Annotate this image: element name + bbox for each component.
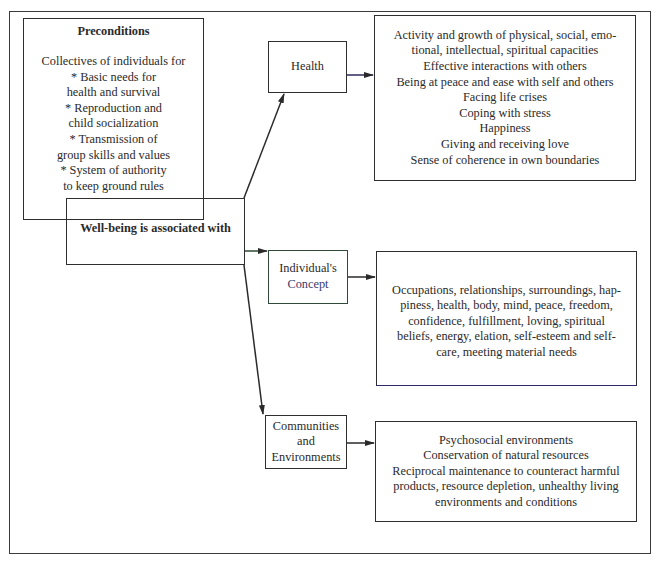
concept-detail-line: piness, health, body, mind, peace, freed… — [400, 298, 613, 314]
health-detail-box: Activity and growth of physical, social,… — [374, 15, 636, 181]
environments-detail-line: Psychosocial environments — [439, 433, 573, 449]
environments-detail-line: environments and conditions — [435, 495, 577, 511]
environments-detail-line: Conservation of natural resources — [423, 448, 589, 464]
health-node: Health — [268, 41, 347, 93]
concept-detail-line: confidence, fulfillment, loving, spiritu… — [408, 314, 605, 330]
individual-concept-label: Concept — [288, 277, 329, 293]
preconditions-line: health and survival — [67, 85, 161, 101]
health-detail-line: Being at peace and ease with self and ot… — [396, 75, 613, 91]
preconditions-line: to keep ground rules — [63, 179, 164, 195]
concept-detail-line: Occupations, relationships, surroundings… — [392, 283, 621, 299]
concept-detail-line: care, meeting material needs — [436, 345, 577, 361]
health-detail-line: Effective interactions with others — [423, 59, 586, 75]
well-being-box: Well-being is associated with — [66, 198, 245, 265]
health-detail-line: Happiness — [479, 121, 530, 137]
health-detail-line: tional, intellectual, spiritual capaciti… — [412, 43, 599, 59]
preconditions-line: group skills and values — [57, 148, 170, 164]
concept-detail-box: Occupations, relationships, surroundings… — [376, 251, 637, 386]
environments-detail-line: Reciprocal maintenance to counteract har… — [392, 464, 619, 480]
preconditions-line: child socialization — [69, 116, 159, 132]
health-detail-line: Giving and receiving love — [441, 137, 569, 153]
communities-label: Environments — [272, 450, 341, 466]
environments-detail-line: products, resource depletion, unhealthy … — [393, 479, 618, 495]
preconditions-title: Preconditions — [77, 24, 149, 39]
communities-environments-node: Communities and Environments — [265, 415, 347, 469]
communities-label: Communities — [273, 419, 339, 435]
health-detail-line: Sense of coherence in own boundaries — [411, 153, 600, 169]
health-detail-line: Facing life crises — [463, 90, 547, 106]
health-label: Health — [291, 59, 324, 75]
preconditions-line: * Transmission of — [69, 132, 157, 148]
well-being-title: Well-being is associated with — [80, 221, 231, 236]
preconditions-line: * System of authority — [60, 163, 166, 179]
preconditions-line: * Reproduction and — [65, 101, 162, 117]
individual-concept-label: Individual's — [279, 261, 337, 277]
health-detail-line: Activity and growth of physical, social,… — [394, 28, 617, 44]
environments-detail-box: Psychosocial environments Conservation o… — [375, 421, 637, 522]
preconditions-box: Preconditions Collectives of individuals… — [23, 18, 204, 220]
individual-concept-node: Individual's Concept — [268, 250, 348, 304]
health-detail-line: Coping with stress — [459, 106, 551, 122]
preconditions-line: * Basic needs for — [71, 70, 156, 86]
communities-label: and — [297, 434, 315, 450]
concept-detail-line: beliefs, energy, elation, self-esteem an… — [397, 329, 616, 345]
preconditions-line: Collectives of individuals for — [42, 54, 186, 70]
